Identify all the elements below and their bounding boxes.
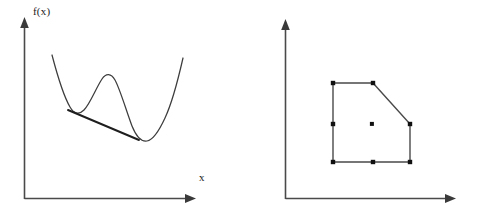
vertex-dot-bottom-left bbox=[331, 160, 335, 164]
interior-point-dot bbox=[370, 122, 374, 126]
polytope-plot-canvas bbox=[240, 0, 481, 215]
edge-dot-bottom-middle bbox=[371, 160, 375, 164]
x1-axis bbox=[286, 194, 457, 203]
vertex-dot-bottom-right bbox=[408, 160, 412, 164]
x1-axis-arrowhead-icon bbox=[445, 194, 456, 203]
x-axis-arrowhead-icon bbox=[185, 194, 196, 203]
x2-axis-arrowhead-icon bbox=[281, 19, 290, 30]
x-axis bbox=[25, 194, 197, 203]
figure-root: f(x) x bbox=[0, 0, 481, 215]
y-axis-label-fx: f(x) bbox=[33, 6, 50, 17]
edge-dot-left-middle bbox=[331, 122, 335, 126]
vertex-dot-top-middle bbox=[371, 81, 375, 85]
x-axis-label-x: x bbox=[199, 172, 205, 183]
y-axis-arrowhead-icon bbox=[20, 17, 29, 28]
right-panel-polytope-plot: x2 x1 bbox=[240, 0, 480, 215]
vertex-dot-top-left bbox=[331, 81, 335, 85]
x2-axis bbox=[281, 19, 290, 199]
vertex-dot-right-upper bbox=[408, 122, 412, 126]
left-panel-function-plot: f(x) x bbox=[0, 0, 240, 215]
y-axis bbox=[20, 17, 29, 199]
objective-function-curve bbox=[52, 55, 183, 141]
polytope-points bbox=[331, 81, 412, 164]
